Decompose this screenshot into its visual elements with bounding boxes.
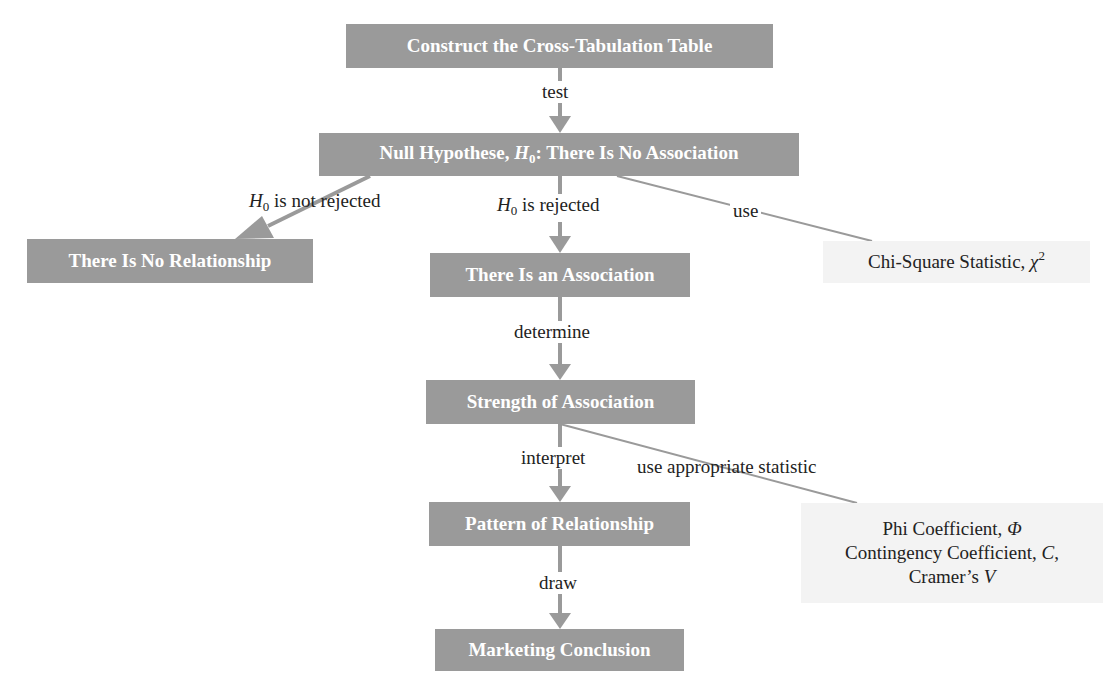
arrowhead-icon [549, 364, 571, 380]
node-chi-square: Chi-Square Statistic, χ2 [823, 241, 1090, 283]
node-label: There Is an Association [465, 264, 654, 286]
arrowhead-icon [235, 216, 274, 239]
edge-label-not-rejected: H0 is not rejected [246, 190, 384, 218]
node-strength: Strength of Association [426, 380, 695, 424]
arrowhead-icon [549, 486, 571, 502]
node-construct-table: Construct the Cross-Tabulation Table [346, 24, 773, 68]
arrowhead-icon [549, 236, 571, 253]
node-label: Null Hypothese, H0: There Is No Associat… [380, 142, 739, 167]
edge-label-use-appropriate: use appropriate statistic [634, 456, 819, 478]
edge-label-determine: determine [511, 321, 593, 343]
node-label: There Is No Relationship [69, 250, 272, 272]
arrowhead-icon [549, 116, 571, 133]
coefficient-contingency: Contingency Coefficient, C, [845, 541, 1059, 565]
arrowhead-icon [549, 613, 571, 629]
node-coefficients: Phi Coefficient, Φ Contingency Coefficie… [801, 503, 1103, 603]
edge-label-test: test [539, 81, 571, 103]
coefficient-phi: Phi Coefficient, Φ [882, 517, 1021, 541]
edge-label-rejected: H0 is rejected [494, 194, 603, 222]
node-label: Chi-Square Statistic, χ2 [868, 250, 1045, 274]
node-label: Construct the Cross-Tabulation Table [407, 35, 713, 57]
coefficient-cramers-v: Cramer’s V [909, 565, 996, 589]
node-pattern: Pattern of Relationship [429, 502, 690, 546]
node-label: Marketing Conclusion [468, 639, 650, 661]
edge-label-use: use [730, 200, 761, 222]
edge-label-interpret: interpret [518, 447, 588, 469]
node-association: There Is an Association [430, 253, 690, 297]
node-no-relationship: There Is No Relationship [27, 239, 313, 283]
node-marketing-conclusion: Marketing Conclusion [435, 629, 684, 671]
node-label: Strength of Association [467, 391, 655, 413]
edge-label-draw: draw [536, 572, 580, 594]
node-null-hypothesis: Null Hypothese, H0: There Is No Associat… [319, 133, 799, 176]
node-label: Pattern of Relationship [465, 513, 654, 535]
